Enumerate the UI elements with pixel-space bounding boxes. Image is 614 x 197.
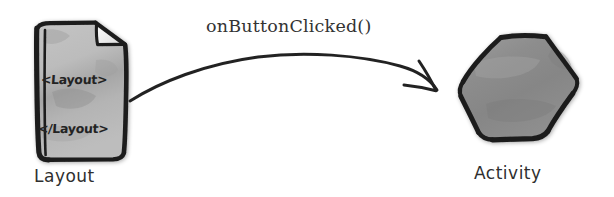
- method-call-label: onButtonClicked(): [206, 16, 371, 36]
- activity-node-caption: Activity: [474, 163, 542, 183]
- activity-hexagon-fill: [460, 35, 577, 139]
- layout-open-tag: <Layout>: [40, 72, 107, 87]
- arrow-curve: [130, 54, 437, 101]
- arrowhead-lower-stroke: [404, 85, 436, 91]
- layout-close-tag: </Layout>: [37, 121, 109, 136]
- node-activity[interactable]: [460, 35, 577, 140]
- layout-node-caption: Layout: [34, 166, 95, 186]
- node-layout[interactable]: [36, 23, 126, 160]
- diagram-canvas: <Layout> </Layout> Layout Activity onBut…: [0, 0, 614, 197]
- edge-layout-to-activity[interactable]: [130, 54, 437, 101]
